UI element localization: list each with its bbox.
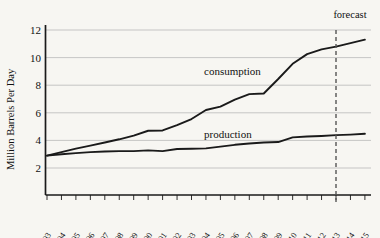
x-axis-tick-label: 2010	[282, 231, 299, 238]
y-axis-tick-label: 12	[30, 24, 41, 36]
y-axis-tick-label: 4	[36, 134, 42, 146]
forecast-label: forecast	[333, 9, 366, 20]
y-axis-tick-labels: 24681012	[30, 24, 42, 174]
chart-canvas: 24681012 1993199419951996199719981999200…	[0, 0, 380, 238]
x-axis-tick-label: 2004	[195, 230, 212, 238]
x-axis-tick-label: 1994	[51, 230, 68, 238]
y-axis-title: Million Barrels Per Day	[5, 68, 16, 170]
x-axis-tick-label: 2013	[325, 231, 342, 238]
x-axis-tick-label: 1999	[123, 231, 140, 238]
x-axis-tick-label: 1993	[36, 231, 53, 238]
x-axis-tick-label: 1996	[80, 231, 97, 238]
x-axis-tick-label: 1998	[108, 231, 125, 238]
x-axis-tick-label: 2002	[166, 231, 183, 238]
x-axis-tick-label: 1995	[65, 231, 82, 238]
x-axis-tick-label: 2012	[311, 231, 328, 238]
x-axis-tick-label: 1997	[94, 231, 111, 238]
y-axis-tick-label: 2	[36, 162, 42, 174]
x-axis-tick-label: 2005	[210, 231, 227, 238]
x-axis-tick-label: 2003	[181, 231, 198, 238]
x-axis-tick-label: 2015	[354, 231, 371, 238]
oil-consumption-production-chart: 24681012 1993199419951996199719981999200…	[0, 0, 380, 238]
x-axis-tick-label: 2006	[224, 231, 241, 238]
x-axis-tick-label: 2008	[253, 231, 270, 238]
x-axis-tick-label: 2000	[137, 231, 154, 238]
series-label-production: production	[204, 128, 252, 140]
x-axis-tick-label: 2009	[267, 231, 284, 238]
y-axis-tick-label: 6	[36, 107, 42, 119]
x-axis-tick-labels: 1993199419951996199719981999200020012002…	[36, 230, 371, 238]
y-axis-tick-label: 8	[36, 79, 42, 91]
x-axis-tick-label: 2007	[238, 231, 255, 238]
series-label-consumption: consumption	[204, 65, 261, 77]
x-axis-tick-label: 2011	[296, 231, 313, 238]
x-axis-tick-label: 2001	[152, 231, 169, 238]
x-axis-tick-label: 2014	[340, 230, 357, 238]
y-axis-tick-label: 10	[30, 52, 42, 64]
